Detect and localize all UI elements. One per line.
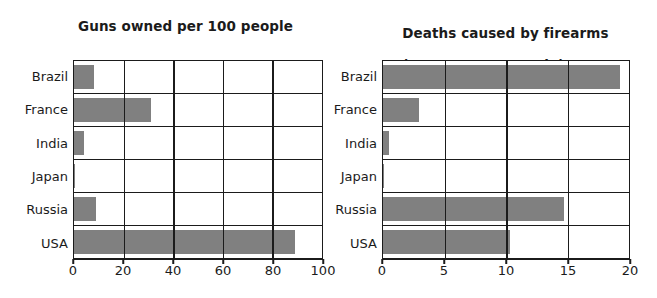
- tick-label-deaths-0: 0: [378, 263, 386, 278]
- category-label-guns-india: India: [36, 127, 68, 160]
- category-label-guns-usa: USA: [41, 227, 68, 260]
- category-axis-firearm-deaths: BrazilFranceIndiaJapanRussiaUSA: [327, 60, 377, 260]
- category-label-guns-japan: Japan: [32, 160, 68, 193]
- category-label-guns-russia: Russia: [26, 193, 68, 226]
- tick-label-guns-0: 0: [69, 263, 77, 278]
- bar-deaths-india: [383, 131, 389, 155]
- bar-deaths-usa: [383, 230, 510, 254]
- tick-label-deaths-20: 20: [622, 263, 639, 278]
- gridline-guns-80: [272, 61, 274, 259]
- gridline-deaths-15: [568, 61, 570, 259]
- category-label-deaths-russia: Russia: [335, 193, 377, 226]
- tick-label-guns-40: 40: [165, 263, 182, 278]
- bar-guns-india: [74, 131, 84, 155]
- gridline-guns-20: [124, 61, 126, 259]
- tick-label-guns-60: 60: [215, 263, 232, 278]
- bar-guns-usa: [74, 230, 295, 254]
- tick-label-deaths-15: 15: [560, 263, 577, 278]
- category-label-deaths-india: India: [345, 127, 377, 160]
- tick-label-deaths-5: 5: [440, 263, 448, 278]
- tick-label-guns-80: 80: [265, 263, 282, 278]
- gridline-guns-60: [223, 61, 225, 259]
- value-axis-guns-owned: 020406080100: [73, 263, 323, 283]
- chart-panel-guns-owned: Guns owned per 100 people BrazilFranceIn…: [0, 0, 330, 298]
- chart-row-russia: [74, 193, 322, 226]
- bar-deaths-brazil: [383, 65, 620, 89]
- chart-title-line-1: Deaths caused by firearms: [402, 25, 608, 41]
- bar-deaths-russia: [383, 197, 564, 221]
- chart-row-japan: [74, 160, 322, 193]
- chart-row-france: [74, 94, 322, 127]
- bar-deaths-france: [383, 98, 419, 122]
- category-label-guns-france: France: [25, 93, 68, 126]
- chart-panel-firearm-deaths: Deaths caused by firearms (per 100,000 p…: [327, 0, 657, 298]
- value-axis-firearm-deaths: 05101520: [382, 263, 630, 283]
- category-label-guns-brazil: Brazil: [32, 60, 68, 93]
- chart-title-guns-owned: Guns owned per 100 people: [78, 18, 293, 34]
- category-label-deaths-usa: USA: [350, 227, 377, 260]
- plot-area-guns-owned: [73, 60, 323, 260]
- bar-guns-japan: [74, 164, 75, 188]
- tick-label-guns-20: 20: [115, 263, 132, 278]
- category-axis-guns-owned: BrazilFranceIndiaJapanRussiaUSA: [0, 60, 68, 260]
- category-label-deaths-france: France: [334, 93, 377, 126]
- category-label-deaths-japan: Japan: [341, 160, 377, 193]
- gridline-deaths-10: [506, 61, 508, 259]
- bar-guns-brazil: [74, 65, 94, 89]
- plot-area-firearm-deaths: [382, 60, 630, 260]
- category-label-deaths-brazil: Brazil: [341, 60, 377, 93]
- gridline-deaths-5: [445, 61, 447, 259]
- chart-row-india: [74, 127, 322, 160]
- tick-label-deaths-10: 10: [498, 263, 515, 278]
- gridline-guns-40: [173, 61, 175, 259]
- bar-guns-france: [74, 98, 151, 122]
- chart-row-brazil: [74, 61, 322, 94]
- bar-guns-russia: [74, 197, 96, 221]
- chart-row-usa: [74, 226, 322, 259]
- bar-deaths-japan: [383, 164, 384, 188]
